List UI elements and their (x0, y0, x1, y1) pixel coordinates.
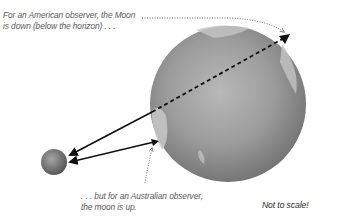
scale-note: Not to scale! (262, 200, 308, 211)
moon-earth-diagram (0, 0, 338, 220)
arrow-upper-to-moon (70, 112, 152, 155)
earth (150, 25, 306, 182)
caption-american-line2: is down (below the horizon) . . . (3, 21, 135, 32)
arrow-lower-to-moon (70, 142, 154, 162)
callout-australian (145, 148, 152, 183)
caption-american: For an American observer, the Moon is do… (3, 10, 135, 31)
caption-australian: . . . but for an Australian observer, th… (81, 191, 203, 212)
caption-australian-line1: . . . but for an Australian observer, (81, 191, 203, 202)
moon (41, 149, 67, 175)
caption-american-line1: For an American observer, the Moon (3, 10, 135, 21)
caption-australian-line2: the moon is up. (81, 202, 203, 213)
